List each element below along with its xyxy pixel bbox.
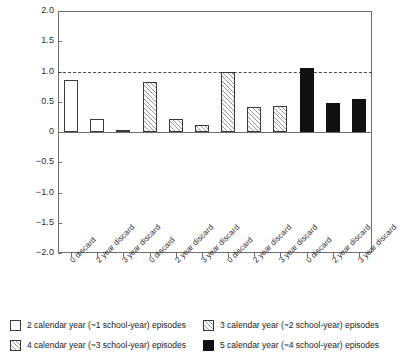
- zero-baseline: [58, 132, 372, 133]
- legend-item: 2 calendar year (~1 school-year) episode…: [10, 320, 186, 331]
- bar: [273, 106, 287, 132]
- legend-label: 2 calendar year (~1 school-year) episode…: [27, 320, 186, 331]
- legend-item: 3 calendar year (~2 school-year) episode…: [203, 320, 379, 331]
- y-axis-tick-label: 1.5: [0, 36, 54, 45]
- legend-item: 4 calendar year (~3 school-year) episode…: [10, 340, 186, 351]
- y-axis-tick-label: −0.5: [0, 157, 54, 166]
- legend-swatch-icon: [10, 320, 21, 331]
- legend-swatch-icon: [203, 320, 214, 331]
- legend-swatch-icon: [203, 340, 214, 351]
- bar: [221, 72, 235, 133]
- y-axis-tick-label: −2.0: [0, 248, 54, 257]
- bar: [352, 99, 366, 132]
- bar: [90, 119, 104, 132]
- bar: [326, 103, 340, 132]
- bar: [143, 82, 157, 132]
- bar-chart: 2.01.51.00.50−0.5−1.0−1.5−2.0 0 discard2…: [0, 0, 410, 364]
- legend-item: 5 calendar year (~4 school-year) episode…: [203, 340, 379, 351]
- legend-label: 3 calendar year (~2 school-year) episode…: [220, 320, 379, 331]
- y-axis-tick-label: 1.0: [0, 67, 54, 76]
- legend-swatch-icon: [10, 340, 21, 351]
- y-axis-tick-label: 2.0: [0, 6, 54, 15]
- y-axis-tick-label: 0.5: [0, 97, 54, 106]
- y-axis-tick-label: −1.0: [0, 188, 54, 197]
- bar: [195, 125, 209, 132]
- y-axis-tick-label: −1.5: [0, 218, 54, 227]
- bar: [64, 80, 78, 132]
- bar: [169, 119, 183, 132]
- y-axis-tick-label: 0: [0, 127, 54, 136]
- y-axis-tick-mark: [58, 253, 62, 254]
- bar: [247, 107, 261, 132]
- legend-label: 4 calendar year (~3 school-year) episode…: [27, 340, 186, 351]
- legend-label: 5 calendar year (~4 school-year) episode…: [220, 340, 379, 351]
- bar: [300, 68, 314, 132]
